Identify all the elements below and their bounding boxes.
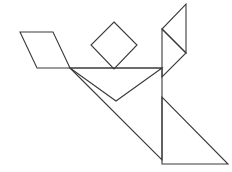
canvas-background xyxy=(0,0,232,172)
tangram-figure xyxy=(0,0,232,172)
